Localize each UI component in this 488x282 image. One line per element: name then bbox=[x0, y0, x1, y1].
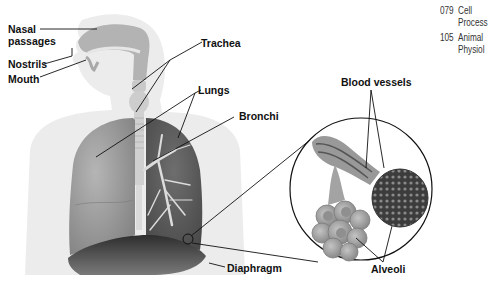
cross-reference-animal-physiology[interactable]: 105Animal Physiol bbox=[440, 32, 484, 56]
label-diaphragm: Diaphragm bbox=[227, 262, 282, 274]
ref-title-cont: Process bbox=[440, 17, 488, 29]
label-nasal-line2: passages bbox=[8, 35, 56, 47]
label-nostrils: Nostrils bbox=[8, 58, 47, 70]
alveoli-magnified-inset bbox=[290, 118, 432, 261]
label-nasal-line1: Nasal bbox=[8, 23, 56, 35]
ref-number: 079 bbox=[440, 5, 458, 17]
respiratory-system-illustration bbox=[0, 0, 488, 282]
ref-title: Animal bbox=[458, 32, 483, 43]
label-bronchi: Bronchi bbox=[239, 110, 279, 122]
label-alveoli: Alveoli bbox=[371, 263, 405, 275]
label-blood-vessels: Blood vessels bbox=[341, 76, 412, 88]
label-lungs: Lungs bbox=[198, 84, 230, 96]
ref-title-cont: Physiol bbox=[440, 44, 484, 56]
cross-reference-cell-process[interactable]: 079Cell Process bbox=[440, 5, 488, 29]
ref-title: Cell bbox=[458, 5, 472, 16]
label-nasal-passages: Nasal passages bbox=[8, 23, 56, 47]
ref-number: 105 bbox=[440, 32, 458, 44]
label-mouth: Mouth bbox=[8, 73, 40, 85]
label-trachea: Trachea bbox=[201, 37, 241, 49]
